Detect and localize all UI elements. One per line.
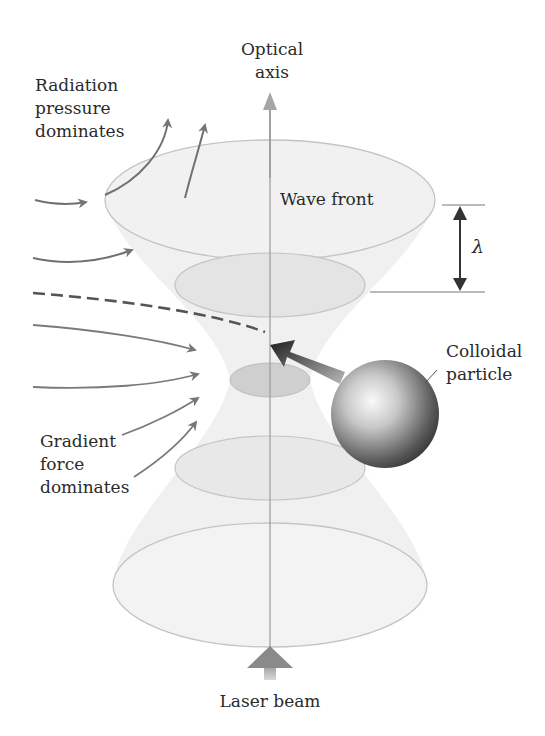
- wavelength-label: λ: [472, 235, 484, 258]
- colloidal-label-line1: Colloidal: [446, 340, 522, 363]
- gradient-arrow-1: [33, 325, 195, 350]
- gradient-label-line1: Gradient: [40, 430, 129, 453]
- colloidal-particle-label: Colloidal particle: [446, 340, 522, 386]
- optical-axis-label: Optical axis: [232, 38, 312, 84]
- laser-beam-arrowhead-icon: [247, 646, 293, 668]
- optical-trap-diagram: Optical axis Radiation pressure dominate…: [0, 0, 545, 736]
- colloidal-label-line2: particle: [446, 363, 522, 386]
- radiation-pressure-label: Radiation pressure dominates: [35, 74, 124, 143]
- lambda-arrowhead-down-icon: [453, 278, 467, 291]
- gradient-arrow-2: [33, 374, 198, 388]
- optical-axis-arrowhead-icon: [263, 92, 277, 110]
- gradient-label-line2: force: [40, 453, 129, 476]
- radiation-arrow-1: [35, 200, 86, 204]
- wave-front-label: Wave front: [280, 188, 374, 211]
- colloidal-particle-leader-line: [425, 370, 437, 383]
- optical-axis-label-line1: Optical: [232, 38, 312, 61]
- radiation-label-line2: pressure: [35, 97, 124, 120]
- lambda-arrowhead-up-icon: [453, 206, 467, 220]
- colloidal-particle-sphere: [331, 360, 439, 468]
- gradient-force-label: Gradient force dominates: [40, 430, 129, 499]
- gradient-label-line3: dominates: [40, 476, 129, 499]
- optical-axis-label-line2: axis: [232, 61, 312, 84]
- radiation-arrow-4: [33, 250, 132, 262]
- gradient-arrow-3: [122, 398, 198, 435]
- laser-beam-label: Laser beam: [210, 690, 330, 713]
- radiation-label-line3: dominates: [35, 120, 124, 143]
- radiation-label-line1: Radiation: [35, 74, 124, 97]
